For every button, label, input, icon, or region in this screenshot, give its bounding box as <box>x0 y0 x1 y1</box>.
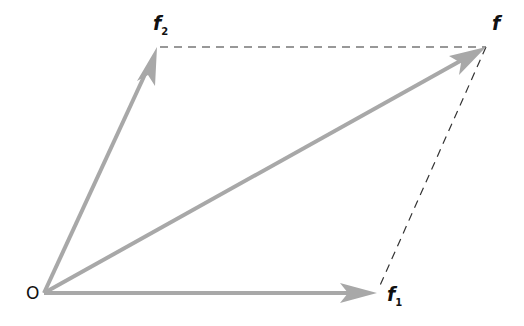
origin-label: O <box>26 283 39 303</box>
label-f-main: f <box>492 12 500 34</box>
vector-f-shaft <box>44 60 462 293</box>
vector-f2-arrowhead <box>137 47 157 86</box>
vector-f2-shaft <box>44 70 147 293</box>
label-f2-sub: 2 <box>161 26 168 37</box>
label-f2: f2 <box>153 12 168 37</box>
label-f1: f1 <box>387 283 402 308</box>
parallelogram-diagram <box>0 0 524 326</box>
label-f: f <box>492 12 500 34</box>
label-f1-sub: 1 <box>395 297 402 308</box>
vector-f-arrowhead <box>449 47 486 75</box>
dashed-line-right <box>378 47 486 290</box>
